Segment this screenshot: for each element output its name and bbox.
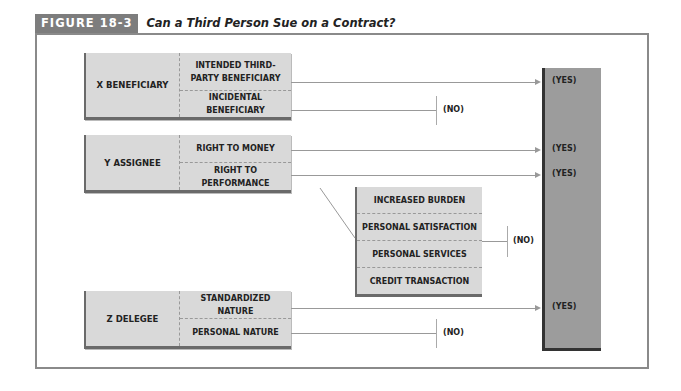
connector-line [482, 241, 507, 242]
outcome-yes: (YES) [552, 302, 576, 311]
connector-line [291, 308, 535, 309]
outcome-no: (NO) [513, 236, 534, 245]
stop-bar [436, 319, 437, 348]
outcome-no: (NO) [443, 328, 464, 337]
connector-line [291, 333, 436, 334]
arrow-right-icon [535, 305, 541, 311]
stop-bar [507, 226, 508, 257]
